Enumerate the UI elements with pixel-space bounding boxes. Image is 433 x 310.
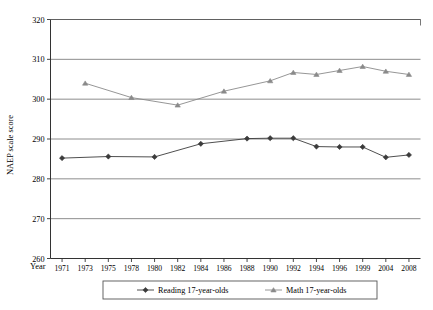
x-tick-label: 1973 <box>78 264 93 273</box>
x-tick-label: 1990 <box>263 264 278 273</box>
x-tick-label: 1988 <box>239 264 254 273</box>
x-tick-label: 1992 <box>286 264 301 273</box>
y-tick-label: 320 <box>32 16 44 25</box>
legend-label-1: Reading 17-year-olds <box>158 286 229 295</box>
naep-line-chart: 260270280290300310320 197119731975197819… <box>0 0 433 310</box>
y-tick-label: 310 <box>32 55 44 64</box>
x-tick-label: 2004 <box>378 264 393 273</box>
y-tick-label: 280 <box>32 175 44 184</box>
y-tick-label: 270 <box>32 215 44 224</box>
x-tick-label: 1978 <box>124 264 139 273</box>
y-tick-label: 300 <box>32 95 44 104</box>
x-tick-label: 1984 <box>193 264 208 273</box>
x-axis-title: Year <box>30 262 46 271</box>
y-axis-title: NAEP scale score <box>6 115 15 175</box>
x-tick-label: 1996 <box>332 264 347 273</box>
x-tick-label: 1971 <box>54 264 69 273</box>
x-tick-label: 1994 <box>309 264 324 273</box>
chart-container: 260270280290300310320 197119731975197819… <box>0 0 433 310</box>
x-tick-label: 1975 <box>101 264 116 273</box>
x-tick-label: 1986 <box>216 264 231 273</box>
legend-label-2: Math 17-year-olds <box>286 286 347 295</box>
y-tick-label: 290 <box>32 135 44 144</box>
x-tick-label: 2008 <box>401 264 416 273</box>
legend: Reading 17-year-oldsMath 17-year-olds <box>103 281 377 299</box>
x-tick-label: 1982 <box>170 264 185 273</box>
x-tick-label: 1980 <box>147 264 162 273</box>
x-tick-label: 1999 <box>355 264 370 273</box>
